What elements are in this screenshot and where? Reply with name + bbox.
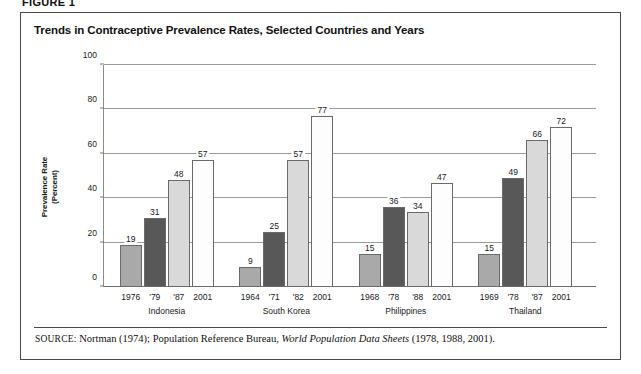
bar-value-label: 9 <box>246 256 255 266</box>
y-tick-label-40: 40 <box>88 183 97 193</box>
bar-group-thailand: 15196949'7866'87722001Thailand <box>478 65 572 287</box>
bar-value-label: 34 <box>411 201 424 211</box>
bar-indonesia-2001[interactable]: 572001 <box>192 160 214 287</box>
bar-indonesia-79[interactable]: 31'79 <box>144 218 166 287</box>
bar-group-philippines: 15196836'7834'88472001Philippines <box>359 65 453 287</box>
figure-caption: FIGURE 1 <box>22 0 75 8</box>
bar-value-label: 72 <box>555 116 568 126</box>
y-tick-label-0: 0 <box>92 272 97 282</box>
bar-philippines-78[interactable]: 36'78 <box>383 207 405 287</box>
bar-value-label: 15 <box>363 243 376 253</box>
source-text-before: Nortman (1974); Population Reference Bur… <box>77 333 282 344</box>
bar-value-label: 36 <box>387 196 400 206</box>
bar-south-korea-71[interactable]: 25'71 <box>263 232 285 288</box>
bar-group-indonesia: 19197631'7948'87572001Indonesia <box>120 65 214 287</box>
bar-group-south-korea: 9196425'7157'82772001South Korea <box>239 65 333 287</box>
y-tick-label-100: 100 <box>83 50 97 60</box>
x-tick-label-year: '78 <box>508 292 519 302</box>
x-axis-group-label: Philippines <box>385 306 426 316</box>
bar-thailand-78[interactable]: 49'78 <box>502 178 524 287</box>
figure-box: Trends in Contraceptive Prevalence Rates… <box>20 12 621 360</box>
x-tick-label-year: '79 <box>149 292 160 302</box>
y-tick-label-80: 80 <box>88 94 97 104</box>
bar-south-korea-2001[interactable]: 772001 <box>311 116 333 287</box>
y-axis-title: Prevalence Rate (Percent) <box>40 137 60 237</box>
x-tick-label-year: 1964 <box>241 292 260 302</box>
bar-value-label: 31 <box>148 207 161 217</box>
chart-title: Trends in Contraceptive Prevalence Rates… <box>34 24 424 36</box>
bar-south-korea-1964[interactable]: 91964 <box>239 267 261 287</box>
x-tick-label-year: 2001 <box>432 292 451 302</box>
x-tick-label-year: 1969 <box>480 292 499 302</box>
bar-value-label: 19 <box>124 234 137 244</box>
x-axis-group-label: South Korea <box>263 306 310 316</box>
x-tick-label-year: 2001 <box>193 292 212 302</box>
source-publication-title: World Population Data Sheets <box>282 333 410 344</box>
x-tick-label-year: 1976 <box>121 292 140 302</box>
bar-philippines-1968[interactable]: 151968 <box>359 254 381 287</box>
y-axis-title-line2: (Percent) <box>50 137 60 237</box>
bar-value-label: 25 <box>268 221 281 231</box>
y-tick-mark-0 <box>100 286 104 287</box>
y-tick-label-20: 20 <box>88 228 97 238</box>
bar-thailand-1969[interactable]: 151969 <box>478 254 500 287</box>
y-tick-label-60: 60 <box>88 139 97 149</box>
bar-value-label: 47 <box>435 172 448 182</box>
bar-value-label: 48 <box>172 169 185 179</box>
x-tick-label-year: '82 <box>293 292 304 302</box>
bar-value-label: 66 <box>531 129 544 139</box>
bar-value-label: 57 <box>292 149 305 159</box>
y-tick-mark-100 <box>100 64 104 65</box>
bar-value-label: 49 <box>507 167 520 177</box>
x-tick-label-year: '87 <box>532 292 543 302</box>
bar-value-label: 77 <box>316 105 329 115</box>
bar-philippines-88[interactable]: 34'88 <box>407 212 429 287</box>
x-axis-group-label: Indonesia <box>148 306 185 316</box>
bar-value-label: 57 <box>196 149 209 159</box>
x-tick-label-year: 2001 <box>313 292 332 302</box>
source-text-after: (1978, 1988, 2001). <box>409 333 495 344</box>
y-axis-line <box>103 65 104 287</box>
x-tick-label-year: '88 <box>412 292 423 302</box>
bar-thailand-2001[interactable]: 722001 <box>550 127 572 287</box>
chart-plot-area: Prevalence Rate (Percent) 020406080100 1… <box>34 59 609 314</box>
y-axis-title-line1: Prevalence Rate <box>40 137 50 237</box>
bar-south-korea-82[interactable]: 57'82 <box>287 160 309 287</box>
x-tick-label-year: 2001 <box>552 292 571 302</box>
x-tick-label-year: '87 <box>173 292 184 302</box>
y-tick-mark-80 <box>100 108 104 109</box>
bar-value-label: 15 <box>483 243 496 253</box>
bar-indonesia-87[interactable]: 48'87 <box>168 180 190 287</box>
source-note: SOURCE: Nortman (1974); Population Refer… <box>35 333 608 344</box>
bar-indonesia-1976[interactable]: 191976 <box>120 245 142 287</box>
source-divider <box>34 327 607 328</box>
y-tick-mark-60 <box>100 152 104 153</box>
bar-thailand-87[interactable]: 66'87 <box>526 140 548 287</box>
x-tick-label-year: '78 <box>388 292 399 302</box>
x-tick-label-year: '71 <box>269 292 280 302</box>
y-tick-mark-40 <box>100 197 104 198</box>
y-tick-mark-20 <box>100 241 104 242</box>
source-label: SOURCE: <box>35 334 77 344</box>
plot-canvas: 020406080100 19197631'7948'87572001Indon… <box>104 65 596 287</box>
x-tick-label-year: 1968 <box>360 292 379 302</box>
x-axis-group-label: Thailand <box>509 306 542 316</box>
bar-philippines-2001[interactable]: 472001 <box>431 183 453 287</box>
